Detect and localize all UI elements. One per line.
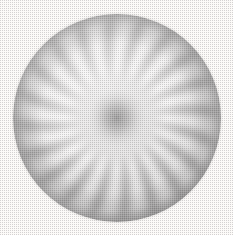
figure-canvas: Halftone radial disc Scanned halftone pr… (0, 0, 233, 235)
radial-vane-disc-artwork: Halftone radial disc Scanned halftone pr… (0, 0, 233, 235)
